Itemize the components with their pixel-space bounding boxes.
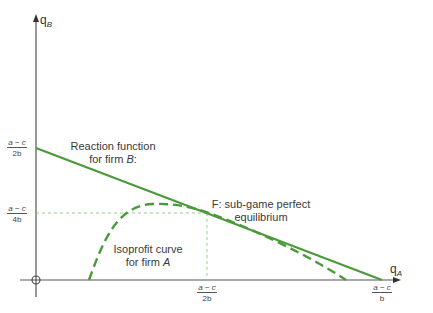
equilibrium-label: F: sub-game perfect equilibrium [206,198,316,224]
equilibrium-label-line2: equilibrium [206,211,316,224]
reaction-function-label: Reaction function for firm B: [58,140,168,166]
reaction-label-line1: Reaction function [58,140,168,153]
isoprofit-label-line1: Isoprofit curve [103,243,193,256]
y-tick-mid: a − c 4b [4,204,30,224]
x-axis-label: qA [390,262,402,278]
reaction-label-line2: for firm B: [58,153,168,166]
equilibrium-label-line1: F: sub-game perfect [206,198,316,211]
isoprofit-label-line2: for firm A [103,256,193,269]
y-tick-top: a − c 2b [4,138,30,158]
isoprofit-label: Isoprofit curve for firm A [103,243,193,269]
y-axis-label: qB [40,13,52,29]
x-tick-right: a − c b [369,283,395,303]
x-tick-mid: a − c 2b [194,283,220,303]
y-axis-arrow-icon [33,14,39,22]
